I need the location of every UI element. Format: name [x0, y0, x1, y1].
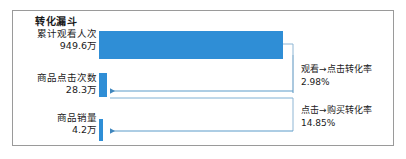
- conversion-annotation-value-2: 14.85%: [301, 117, 393, 130]
- conversion-annotation-label-1: 观看→点击转化率: [301, 63, 393, 76]
- funnel-stage-value-1: 949.6万: [0, 40, 97, 52]
- conversion-annotation-1: 观看→点击转化率 2.98%: [301, 63, 393, 89]
- funnel-row-1: 累计观看人次 949.6万: [0, 28, 406, 68]
- funnel-bar-2: [99, 73, 107, 97]
- funnel-label-3: 商品销量 4.2万: [0, 112, 97, 136]
- conversion-annotation-2: 点击→购买转化率 14.85%: [301, 104, 393, 130]
- funnel-label-1: 累计观看人次 949.6万: [0, 28, 97, 52]
- conversion-annotation-label-2: 点击→购买转化率: [301, 104, 393, 117]
- funnel-label-2: 商品点击次数 28.3万: [0, 72, 97, 96]
- conversion-funnel-chart: 转化漏斗 累计观看人次 949.6万 商品点击次数 28.3万 商品销量 4.2…: [0, 0, 406, 159]
- funnel-stage-name-1: 累计观看人次: [0, 28, 97, 40]
- funnel-stage-name-2: 商品点击次数: [0, 72, 97, 84]
- funnel-bar-3: [99, 119, 103, 141]
- conversion-annotation-value-1: 2.98%: [301, 76, 393, 89]
- funnel-stage-value-2: 28.3万: [0, 84, 97, 96]
- funnel-bar-1: [99, 31, 283, 59]
- funnel-stage-value-3: 4.2万: [0, 124, 97, 136]
- funnel-stage-name-3: 商品销量: [0, 112, 97, 124]
- page-title: 转化漏斗: [35, 13, 77, 28]
